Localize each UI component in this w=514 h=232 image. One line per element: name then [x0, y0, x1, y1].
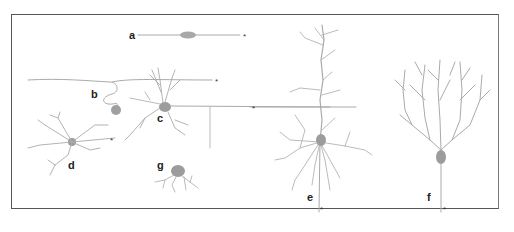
axon-marker-b: * — [215, 78, 218, 86]
neuron-a — [138, 32, 240, 39]
axon-marker-e: * — [320, 206, 323, 214]
axon-marker-a: * — [243, 33, 246, 41]
label-a: a — [129, 30, 135, 41]
neuron-e — [250, 25, 372, 212]
label-f: f — [427, 192, 431, 203]
axon-marker-f: * — [443, 206, 446, 214]
label-c: c — [157, 113, 163, 124]
label-d: d — [68, 160, 75, 171]
axon-marker-d: * — [110, 137, 113, 145]
axon-marker-c: * — [252, 105, 255, 113]
label-g: g — [157, 160, 164, 171]
neuron-f — [395, 60, 490, 212]
label-e: e — [307, 192, 313, 203]
neuron-c — [125, 68, 330, 148]
neuron-illustrations — [0, 0, 514, 232]
neuron-b — [28, 79, 212, 115]
label-b: b — [91, 89, 98, 100]
